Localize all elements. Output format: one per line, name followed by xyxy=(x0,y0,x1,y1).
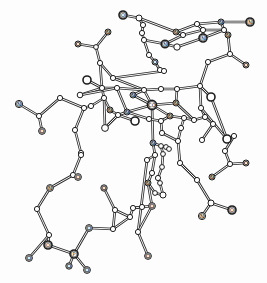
bond xyxy=(211,97,227,139)
atom-carbon xyxy=(146,52,151,57)
atom-carbon xyxy=(112,207,117,212)
atom-carbon xyxy=(146,116,151,121)
atom-layer: OONNNNNNONONNNOCONNNONNNONOOONOOPOOOO xyxy=(15,11,254,273)
atom-circle xyxy=(167,147,172,152)
bond-layer xyxy=(19,15,250,270)
bond xyxy=(60,98,84,108)
atom-carbon xyxy=(101,95,106,100)
atom-circle xyxy=(153,191,158,196)
bond xyxy=(75,130,81,153)
atom-carbon xyxy=(127,214,132,219)
bond xyxy=(200,62,208,86)
atom-circle xyxy=(131,117,139,125)
atom-n: N xyxy=(218,19,224,25)
atom-circle xyxy=(194,21,199,26)
atom-carbon xyxy=(205,59,210,64)
atom-circle xyxy=(110,75,115,80)
atom-circle xyxy=(97,60,102,65)
atom-label: N xyxy=(106,29,110,35)
atom-label: O xyxy=(76,41,80,47)
atom-carbon xyxy=(197,83,202,88)
atom-label: O xyxy=(87,225,91,231)
atom-n: N xyxy=(173,100,179,106)
atom-circle xyxy=(158,118,163,123)
atom-circle xyxy=(140,22,145,27)
atom-circle xyxy=(81,105,86,110)
atom-p: P xyxy=(70,250,78,258)
atom-n: N xyxy=(15,100,22,107)
atom-carbon xyxy=(149,170,154,175)
molecule-diagram: OONNNNNNONONNNOCONNNONNNONOOONOOPOOOO xyxy=(0,0,267,283)
atom-carbon xyxy=(72,127,77,132)
atom-circle xyxy=(114,85,119,90)
atom-circle xyxy=(158,181,163,186)
atom-label: N xyxy=(201,35,205,41)
atom-circle xyxy=(88,103,93,108)
atom-n: N xyxy=(209,174,215,180)
atom-carbon xyxy=(97,60,102,65)
atom-carbon xyxy=(161,68,166,73)
atom-circle xyxy=(101,95,106,100)
atom-carbon xyxy=(167,147,172,152)
atom-label: N xyxy=(226,32,230,38)
atom-label: N xyxy=(248,19,252,25)
atom-carbon xyxy=(159,144,164,149)
atom-label: N xyxy=(219,19,223,25)
atom-label: O xyxy=(153,59,157,65)
atom-circle xyxy=(231,133,236,138)
atom-circle xyxy=(161,68,166,73)
atom-carbon xyxy=(177,160,182,165)
atom-label: O xyxy=(67,263,71,269)
atom-circle xyxy=(159,144,164,149)
atom-carbon xyxy=(159,130,164,135)
atom-circle xyxy=(78,152,83,157)
atom-o: O xyxy=(149,203,156,210)
atom-circle xyxy=(174,44,180,50)
atom-circle xyxy=(208,200,214,206)
atom-label: N xyxy=(108,107,112,113)
atom-circle xyxy=(205,59,210,64)
atom-carbon xyxy=(110,75,115,80)
atom-circle xyxy=(46,232,51,237)
atom-label: O xyxy=(244,160,248,166)
atom-carbon xyxy=(131,117,139,125)
atom-carbon xyxy=(191,117,196,122)
atom-circle xyxy=(83,76,91,84)
atom-circle xyxy=(198,105,203,110)
atom-carbon xyxy=(158,181,163,186)
atom-circle xyxy=(139,30,144,35)
atom-o: O xyxy=(145,253,152,260)
atom-carbon xyxy=(77,92,83,98)
atom-carbon xyxy=(160,192,166,198)
atom-carbon xyxy=(88,103,93,108)
atom-label: N xyxy=(163,41,167,47)
atom-carbon xyxy=(194,21,199,26)
atom-circle xyxy=(99,85,104,90)
bond xyxy=(113,217,130,229)
atom-carbon xyxy=(175,138,180,143)
bond xyxy=(113,71,164,78)
bond xyxy=(50,175,73,188)
atom-o: O xyxy=(44,241,52,249)
atom-carbon xyxy=(174,86,179,91)
atom-carbon xyxy=(102,125,109,132)
atom-circle xyxy=(141,87,146,92)
atom-o: O xyxy=(243,160,249,166)
atom-label: N xyxy=(48,185,52,191)
atom-n: N xyxy=(145,180,151,186)
atom-n: N xyxy=(105,29,111,35)
atom-circle xyxy=(207,93,215,101)
atom-circle xyxy=(180,32,185,37)
atom-circle xyxy=(199,137,204,142)
atom-carbon xyxy=(114,85,119,90)
atom-circle xyxy=(115,112,120,117)
atom-label: O xyxy=(244,62,248,68)
atom-carbon xyxy=(140,22,145,27)
atom-carbon xyxy=(174,44,180,50)
atom-carbon xyxy=(57,95,62,100)
bond xyxy=(75,108,84,130)
atom-o: O xyxy=(228,206,236,214)
atom-n: N xyxy=(150,140,156,146)
atom-carbon xyxy=(155,175,160,180)
atom-carbon xyxy=(231,133,236,138)
